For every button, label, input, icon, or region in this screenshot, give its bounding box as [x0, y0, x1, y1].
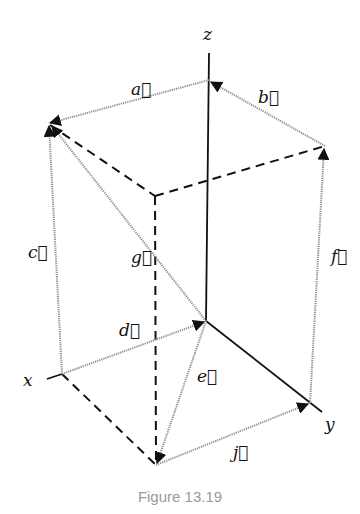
vector-f-label: f⃗: [329, 246, 348, 266]
figure-caption: Figure 13.19: [138, 488, 222, 505]
vector-b-label: b⃗: [258, 87, 279, 107]
x-axis-label: x: [23, 370, 33, 390]
vector-f: [310, 149, 324, 403]
vector-a: [50, 80, 209, 123]
y-axis-label: y: [324, 414, 335, 434]
vector-c-label: c⃗: [28, 242, 48, 262]
dashed-edge-x-to-bottom: [62, 374, 156, 465]
dashed-edge-inner-to-bottom: [155, 196, 156, 462]
vector-a-label: a⃗: [131, 79, 151, 99]
vector-g-label: g⃗: [131, 247, 152, 267]
vector-j-label: j⃗: [229, 442, 248, 462]
vector-c: [49, 126, 62, 374]
z-axis: [206, 53, 209, 321]
vector-g: [52, 126, 206, 321]
vector-e-label: e⃗: [197, 366, 217, 386]
x-axis-stub: [47, 374, 62, 379]
dashed-edge-top-left-to-inner: [50, 125, 155, 196]
z-axis-label: z: [202, 24, 213, 44]
dashed-edge-inner-to-top-right: [155, 146, 325, 196]
vector-d-label: d⃗: [119, 320, 140, 340]
vector-box-diagram: z x y a⃗ b⃗ c⃗ d⃗ e⃗ f⃗ g⃗ j⃗ Figure 13.…: [0, 0, 360, 514]
vector-j: [156, 404, 308, 465]
vector-e: [157, 321, 206, 463]
y-axis: [206, 321, 322, 412]
